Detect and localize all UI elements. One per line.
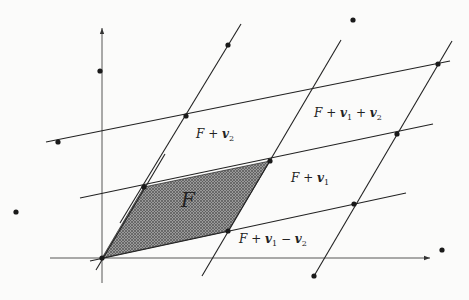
- lattice-point: [141, 184, 146, 189]
- diagram-svg: [0, 0, 469, 300]
- lattice-point: [435, 61, 440, 66]
- label-F-plus-v1: F + v1: [291, 171, 329, 187]
- lattice-line: [80, 124, 433, 198]
- label-F-plus-v1-plus-v2: F + v1 + v2: [314, 106, 382, 122]
- lattice-point: [439, 247, 444, 252]
- lattice-point: [13, 209, 18, 214]
- lattice-point: [225, 42, 230, 47]
- lattice-point: [99, 255, 104, 260]
- lattice-point: [183, 113, 188, 118]
- lattice-point: [394, 131, 399, 136]
- lattice-point: [311, 273, 316, 278]
- label-F-plus-v1-minus-v2: F + v1 − v2: [239, 232, 307, 248]
- lattice-point: [225, 228, 230, 233]
- label-fundamental-domain: F: [181, 188, 195, 212]
- lattice-point: [97, 68, 102, 73]
- lattice-line: [314, 41, 452, 276]
- lattice-line: [46, 61, 450, 142]
- label-F-plus-v2: F + v2: [196, 127, 234, 143]
- lattice-diagram: F F + v2 F + v1 + v2 F + v1 F + v1 − v2: [0, 0, 469, 300]
- lattice-point: [267, 158, 272, 163]
- lattice-point: [351, 201, 356, 206]
- lattice-point: [55, 139, 60, 144]
- lattice-point: [350, 17, 355, 22]
- lattice-points: [13, 17, 444, 278]
